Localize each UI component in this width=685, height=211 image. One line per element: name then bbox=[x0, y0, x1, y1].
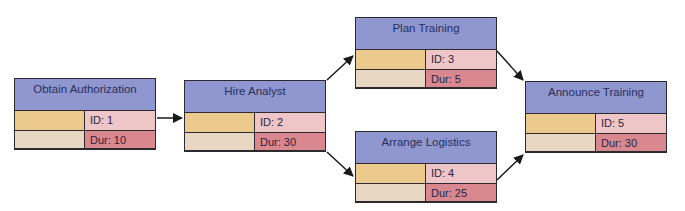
node-id: ID: 5 bbox=[596, 114, 666, 133]
edge-2-4 bbox=[327, 152, 353, 176]
node-duration: Dur: 30 bbox=[255, 133, 325, 151]
empty-cell bbox=[15, 131, 85, 149]
empty-cell bbox=[356, 184, 426, 202]
node-hire-analyst[interactable]: Hire Analyst ID: 2 Dur: 30 bbox=[184, 80, 326, 152]
node-id: ID: 4 bbox=[426, 164, 496, 183]
node-title: Announce Training bbox=[526, 82, 666, 114]
node-announce-training[interactable]: Announce Training ID: 5 Dur: 30 bbox=[525, 81, 667, 153]
node-obtain-authorization[interactable]: Obtain Authorization ID: 1 Dur: 10 bbox=[14, 78, 156, 150]
edge-2-3 bbox=[327, 56, 353, 80]
node-title: Arrange Logistics bbox=[356, 132, 496, 164]
node-id: ID: 1 bbox=[85, 111, 155, 130]
empty-cell bbox=[526, 134, 596, 152]
node-arrange-logistics[interactable]: Arrange Logistics ID: 4 Dur: 25 bbox=[355, 131, 497, 203]
empty-cell bbox=[15, 111, 85, 130]
node-duration: Dur: 5 bbox=[426, 70, 496, 88]
node-duration: Dur: 25 bbox=[426, 184, 496, 202]
node-id: ID: 2 bbox=[255, 113, 325, 132]
node-title: Obtain Authorization bbox=[15, 79, 155, 111]
edge-4-5 bbox=[497, 155, 523, 180]
node-plan-training[interactable]: Plan Training ID: 3 Dur: 5 bbox=[355, 17, 497, 89]
node-id: ID: 3 bbox=[426, 50, 496, 69]
empty-cell bbox=[356, 164, 426, 183]
empty-cell bbox=[356, 50, 426, 69]
empty-cell bbox=[356, 70, 426, 88]
node-title: Plan Training bbox=[356, 18, 496, 50]
empty-cell bbox=[185, 113, 255, 132]
empty-cell bbox=[185, 133, 255, 151]
edge-3-5 bbox=[497, 51, 523, 80]
empty-cell bbox=[526, 114, 596, 133]
node-duration: Dur: 10 bbox=[85, 131, 155, 149]
node-title: Hire Analyst bbox=[185, 81, 325, 113]
node-duration: Dur: 30 bbox=[596, 134, 666, 152]
